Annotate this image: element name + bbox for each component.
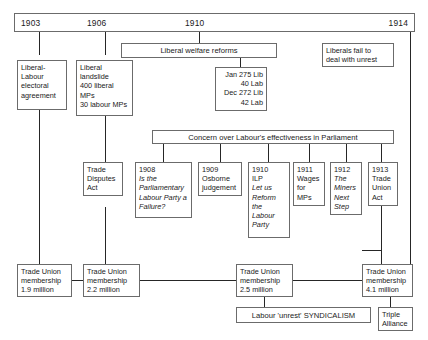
landslide-line-3: 400 liberal <box>80 81 129 90</box>
box-trade-disputes-act: Trade Disputes Act <box>83 162 123 196</box>
membership-1910-line-3: 2.5 million <box>240 285 289 294</box>
banner-labour-unrest-label: Labour 'unrest' SYNDICALISM <box>252 311 355 320</box>
wages-1911-line-2: for <box>297 183 321 192</box>
lib-lab-line-1: Liberal- <box>21 63 63 72</box>
election-line-dec-lib: Dec 272 Lib <box>219 88 263 97</box>
landslide-line-5: 30 labour MPs <box>80 100 129 109</box>
connector-membership-1910-1914 <box>293 280 362 281</box>
ilp-1910-line-4: the <box>252 202 286 211</box>
membership-1903-line-1: Trade Union <box>21 267 68 276</box>
banner-liberal-welfare-reforms-label: Liberal welfare reforms <box>160 46 237 55</box>
landslide-line-4: MPs <box>80 91 129 100</box>
box-liberal-labour-electoral-agreement: Liberal- Labour electoral agreement <box>17 60 67 110</box>
landslide-line-2: landslide <box>80 72 129 81</box>
wages-1911-line-3: MPs <box>297 193 321 202</box>
timeline-year-1914: 1914 <box>389 18 408 28</box>
connector-1913-down <box>381 206 382 264</box>
tua-1913-line-1: Trade <box>372 174 394 183</box>
box-trade-union-membership-1906: Trade Union membership 2.2 million <box>83 264 140 297</box>
drop-line-triple-alliance <box>390 297 391 307</box>
miners-1912-line-4: Step <box>334 202 358 211</box>
ilp-1910-line-3: Reform <box>252 193 286 202</box>
osborne-1909-line-2: judgement <box>202 183 238 192</box>
box-ilp-pamphlet-1910: 1910 ILP Let us Reform the Labour Party <box>248 162 290 238</box>
pamphlet-1908-line-4: Failure? <box>139 202 188 211</box>
landslide-line-1: Liberal <box>80 63 129 72</box>
ilp-1910-line-1: ILP <box>252 174 286 183</box>
membership-1910-line-2: membership <box>240 276 289 285</box>
connector-welfare-to-elections <box>240 58 241 67</box>
trade-disputes-line-1: Trade <box>87 165 119 174</box>
tick-line-1914 <box>410 32 411 264</box>
tua-1913-line-2: Union <box>372 183 394 192</box>
membership-1910-line-1: Trade Union <box>240 267 289 276</box>
membership-1906-line-3: 2.2 million <box>87 285 136 294</box>
timeline-bar: 1903 1906 1910 1914 <box>14 13 415 32</box>
election-line-jan-lib: Jan 275 Lib <box>219 70 263 79</box>
wages-1911-year: 1911 <box>297 165 321 174</box>
banner-concern-over-labour-label: Concern over Labour's effectiveness in P… <box>188 133 357 142</box>
drop-line-1909 <box>220 144 221 162</box>
box-triple-alliance: Triple Alliance <box>378 307 413 331</box>
connector-membership-1906-1910 <box>140 280 236 281</box>
timeline-diagram: 1903 1906 1910 1914 Liberal welfare refo… <box>0 0 428 340</box>
box-1910-election-results: Jan 275 Lib 40 Lab Dec 272 Lib 42 Lab <box>215 67 267 111</box>
box-wages-for-mps-1911: 1911 Wages for MPs <box>293 162 325 206</box>
ilp-1910-line-5: Labour <box>252 211 286 220</box>
triple-alliance-line-2: Alliance <box>382 319 409 328</box>
box-pamphlet-1908: 1908 Is the Parliamentary Labour Party a… <box>135 162 192 218</box>
osborne-1909-year: 1909 <box>202 165 238 174</box>
pamphlet-1908-line-2: Parliamentary <box>139 183 188 192</box>
wages-1911-line-1: Wages <box>297 174 321 183</box>
drop-line-1908 <box>163 144 164 162</box>
triple-alliance-line-1: Triple <box>382 310 409 319</box>
miners-1912-line-1: The <box>334 174 358 183</box>
spine-line-1903 <box>39 110 40 264</box>
timeline-year-1906: 1906 <box>87 18 106 28</box>
pamphlet-1908-line-1: Is the <box>139 174 188 183</box>
lib-lab-line-4: agreement <box>21 91 63 100</box>
box-liberal-landslide: Liberal landslide 400 liberal MPs 30 lab… <box>76 60 133 116</box>
banner-liberal-welfare-reforms: Liberal welfare reforms <box>121 43 277 58</box>
miners-1912-line-2: Miners <box>334 183 358 192</box>
tua-1913-line-3: Act <box>372 193 394 202</box>
membership-1914-line-3: 4.1 million <box>366 285 409 294</box>
lib-lab-line-2: Labour <box>21 72 63 81</box>
timeline-year-1903: 1903 <box>21 18 40 28</box>
banner-labour-unrest-syndicalism: Labour 'unrest' SYNDICALISM <box>236 307 371 323</box>
box-trade-union-act-1913: 1913 Trade Union Act <box>368 162 398 206</box>
spine-line-1906-lower <box>105 207 106 264</box>
lib-lab-line-3: electoral <box>21 81 63 90</box>
miners-1912-line-3: Next <box>334 193 358 202</box>
box-osborne-judgement-1909: 1909 Osborne judgement <box>198 162 242 196</box>
drop-line-1911 <box>309 144 310 162</box>
tick-line-1903 <box>39 32 40 55</box>
pamphlet-1908-year: 1908 <box>139 165 188 174</box>
election-line-dec-lab: 42 Lab <box>219 98 263 107</box>
miners-1912-year: 1912 <box>334 165 358 174</box>
box-trade-union-membership-1903: Trade Union membership 1.9 million <box>17 264 72 297</box>
drop-line-1913 <box>381 144 382 162</box>
membership-1914-line-1: Trade Union <box>366 267 409 276</box>
pamphlet-1908-line-3: Labour Party a <box>139 193 188 202</box>
box-miners-next-step-1912: 1912 The Miners Next Step <box>330 162 362 215</box>
membership-1906-line-1: Trade Union <box>87 267 136 276</box>
connector-membership-1903-1906 <box>72 280 83 281</box>
banner-concern-over-labour: Concern over Labour's effectiveness in P… <box>152 130 394 144</box>
box-liberals-fail-unrest: Liberals fail to deal with unrest <box>322 43 394 67</box>
ilp-1910-line-6: Party <box>252 220 286 229</box>
liberals-fail-line-2: deal with unrest <box>326 55 390 64</box>
drop-line-labour-unrest <box>264 297 265 307</box>
osborne-1909-line-1: Osborne <box>202 174 238 183</box>
trade-disputes-line-2: Disputes <box>87 174 119 183</box>
membership-1914-line-2: membership <box>366 276 409 285</box>
membership-1906-line-2: membership <box>87 276 136 285</box>
drop-line-1910-ilp <box>268 144 269 162</box>
membership-1903-line-2: membership <box>21 276 68 285</box>
box-trade-union-membership-1914: Trade Union membership 4.1 million <box>362 264 413 297</box>
ilp-1910-year: 1910 <box>252 165 286 174</box>
tua-1913-year: 1913 <box>372 165 394 174</box>
ilp-1910-line-2: Let us <box>252 183 286 192</box>
timeline-year-1910: 1910 <box>185 18 204 28</box>
box-trade-union-membership-1910: Trade Union membership 2.5 million <box>236 264 293 297</box>
